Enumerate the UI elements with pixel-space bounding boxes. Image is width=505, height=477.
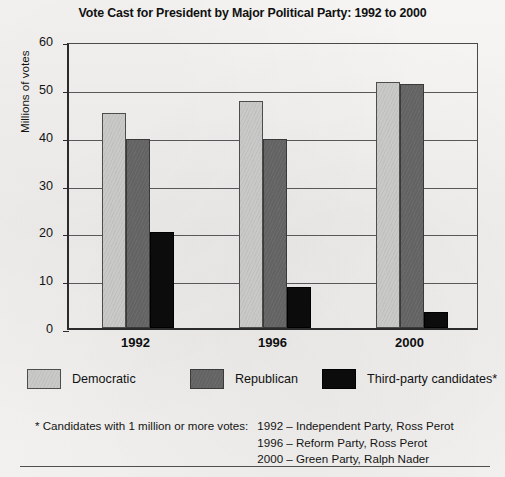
bar-2000-third bbox=[424, 312, 448, 328]
bar-1992-rep bbox=[126, 139, 150, 328]
bar-2000-dem bbox=[376, 82, 400, 328]
y-axis-tick bbox=[63, 331, 69, 332]
legend-swatch-dem bbox=[27, 369, 61, 389]
bar-2000-rep bbox=[400, 84, 424, 328]
legend-swatch-third bbox=[322, 369, 356, 389]
y-axis-tick-label: 20 bbox=[0, 226, 53, 240]
legend-label-third: Third-party candidates* bbox=[367, 372, 497, 386]
y-axis-tick-label: 0 bbox=[0, 322, 53, 336]
footnote-lines: 1992 – Independent Party, Ross Perot1996… bbox=[257, 418, 453, 468]
x-axis-tick-label-1996: 1996 bbox=[233, 335, 313, 350]
y-axis-tick bbox=[63, 92, 69, 93]
footnote-lead: * Candidates with 1 million or more vote… bbox=[35, 418, 248, 468]
legend-item-dem[interactable]: Democratic bbox=[27, 366, 136, 392]
y-axis-tick bbox=[63, 44, 69, 45]
y-axis-tick-label: 30 bbox=[0, 179, 53, 193]
legend-swatch-rep bbox=[190, 369, 224, 389]
legend-item-rep[interactable]: Republican bbox=[190, 366, 298, 392]
legend-item-third[interactable]: Third-party candidates* bbox=[322, 366, 497, 392]
footnote: * Candidates with 1 million or more vote… bbox=[35, 418, 454, 468]
legend-label-dem: Democratic bbox=[72, 372, 136, 386]
x-axis-tick-label-1992: 1992 bbox=[96, 335, 176, 350]
y-axis-tick bbox=[63, 283, 69, 284]
bar-1996-dem bbox=[239, 101, 263, 328]
y-axis-tick-label: 60 bbox=[0, 35, 53, 49]
chart-title: Vote Cast for President by Major Politic… bbox=[0, 6, 505, 20]
chart-legend: DemocraticRepublicanThird-party candidat… bbox=[0, 366, 505, 392]
bar-1992-dem bbox=[102, 113, 126, 328]
bottom-divider bbox=[20, 466, 490, 467]
x-axis-tick-label-2000: 2000 bbox=[370, 335, 450, 350]
y-axis-tick bbox=[63, 140, 69, 141]
y-axis-title: Millions of votes bbox=[18, 3, 31, 133]
footnote-line-1: 1992 – Independent Party, Ross Perot bbox=[257, 418, 453, 435]
plot-area bbox=[67, 43, 478, 330]
y-axis-tick-label: 10 bbox=[0, 274, 53, 288]
legend-label-rep: Republican bbox=[235, 372, 298, 386]
y-axis-tick bbox=[63, 235, 69, 236]
bar-1996-third bbox=[287, 287, 311, 328]
y-axis-tick-label: 40 bbox=[0, 131, 53, 145]
y-axis-tick-label: 50 bbox=[0, 83, 53, 97]
y-axis-tick bbox=[63, 188, 69, 189]
bar-1996-rep bbox=[263, 139, 287, 328]
footnote-line-2: 1996 – Reform Party, Ross Perot bbox=[257, 435, 453, 452]
bar-1992-third bbox=[150, 232, 174, 328]
